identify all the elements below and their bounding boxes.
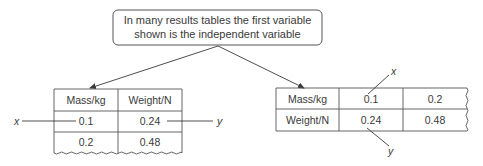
right-cell-r1c2: 0.2	[428, 93, 443, 105]
callout-line-2: shown is the independent variable	[134, 28, 300, 40]
right-cell-r1c1: 0.1	[364, 93, 379, 105]
left-cell-r1c2: 0.24	[140, 115, 161, 127]
right-label-mass: Mass/kg	[288, 93, 327, 105]
torn-edge-right	[466, 88, 468, 131]
arrow-to-right-table	[218, 46, 304, 88]
left-header-mass: Mass/kg	[66, 94, 105, 106]
left-cell-r2c2: 0.48	[140, 136, 161, 148]
right-cell-r2c1: 0.24	[361, 114, 382, 126]
right-cell-r2c2: 0.48	[425, 114, 446, 126]
right-y-label: y	[387, 145, 394, 157]
callout-line-1: In many results tables the first variabl…	[124, 14, 312, 26]
right-label-weight: Weight/N	[286, 114, 329, 126]
right-x-pointer	[368, 75, 389, 94]
left-cell-r1c1: 0.1	[79, 115, 94, 127]
left-header-weight: Weight/N	[129, 94, 172, 106]
left-y-label: y	[216, 115, 223, 127]
arrow-to-left-table	[90, 46, 218, 88]
callout-box: In many results tables the first variabl…	[113, 10, 322, 45]
left-x-label: x	[13, 115, 20, 127]
right-x-label: x	[390, 65, 397, 77]
diagram-canvas: In many results tables the first variabl…	[0, 0, 483, 166]
left-cell-r2c1: 0.2	[79, 136, 94, 148]
